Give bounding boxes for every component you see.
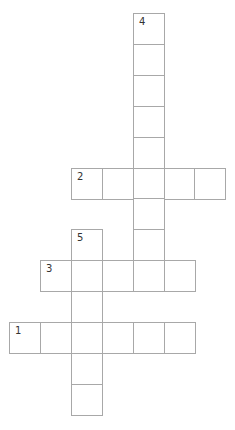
crossword-cell[interactable] (133, 198, 165, 230)
crossword-cell[interactable] (133, 229, 165, 261)
crossword-cell[interactable] (133, 106, 165, 138)
crossword-cell[interactable] (102, 260, 134, 292)
clue-number: 2 (77, 171, 83, 183)
crossword-cell[interactable] (164, 260, 196, 292)
clue-number: 5 (77, 232, 83, 244)
crossword-cell[interactable]: 3 (40, 260, 72, 292)
crossword-cell[interactable] (164, 168, 196, 200)
crossword-cell[interactable] (194, 168, 226, 200)
crossword-grid: 12345 (0, 0, 235, 430)
crossword-cell[interactable]: 4 (133, 13, 165, 45)
crossword-cell[interactable] (164, 322, 196, 354)
clue-number: 4 (139, 16, 145, 28)
crossword-cell[interactable] (133, 168, 165, 200)
crossword-cell[interactable]: 5 (71, 229, 103, 261)
crossword-cell[interactable] (71, 260, 103, 292)
crossword-cell[interactable] (102, 322, 134, 354)
crossword-cell[interactable] (71, 353, 103, 385)
crossword-cell[interactable] (133, 44, 165, 76)
crossword-cell[interactable] (71, 291, 103, 323)
crossword-cell[interactable] (133, 260, 165, 292)
crossword-cell[interactable]: 1 (9, 322, 41, 354)
clue-number: 1 (15, 325, 21, 337)
crossword-cell[interactable] (71, 384, 103, 416)
crossword-cell[interactable] (133, 322, 165, 354)
crossword-cell[interactable] (133, 137, 165, 169)
crossword-cell[interactable] (71, 322, 103, 354)
crossword-cell[interactable] (133, 75, 165, 107)
crossword-cell[interactable] (102, 168, 134, 200)
crossword-cell[interactable]: 2 (71, 168, 103, 200)
clue-number: 3 (46, 263, 52, 275)
crossword-cell[interactable] (40, 322, 72, 354)
